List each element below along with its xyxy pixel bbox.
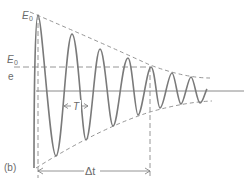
svg-text:E: E	[22, 10, 29, 21]
svg-text:0: 0	[14, 59, 18, 66]
initial-amplitude-label: E 0	[22, 10, 33, 22]
period-label: T	[73, 101, 80, 112]
period-marker: T	[64, 100, 88, 112]
upper-envelope	[30, 12, 210, 78]
time-interval-marker: Δt	[38, 164, 150, 177]
svg-text:e: e	[8, 71, 14, 82]
time-interval-label: Δt	[85, 165, 95, 177]
decayed-amplitude-label: E 0 e	[7, 54, 18, 82]
panel-label: (b)	[4, 162, 16, 173]
svg-text:E: E	[7, 54, 14, 65]
svg-text:0: 0	[29, 15, 33, 22]
damped-oscillation-diagram: T Δt E 0 E 0 e (b)	[0, 0, 248, 183]
